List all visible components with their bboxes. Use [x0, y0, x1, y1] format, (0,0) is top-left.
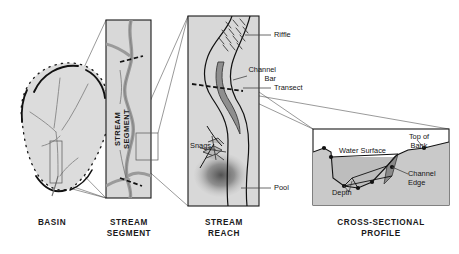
callout-top-of-bank: Top of Bank — [399, 133, 439, 150]
caption-cross-sectional-profile: CROSS-SECTIONAL PROFILE — [311, 218, 451, 239]
basin-panel — [21, 63, 109, 196]
stream-segment-inner-label: STREAM SEGMENT — [113, 107, 131, 151]
caption-stream-reach: STREAM REACH — [186, 218, 262, 239]
callout-channel-bar: Channel Bar — [232, 66, 276, 83]
stream-reach-panel — [188, 16, 259, 206]
callout-transect: Transect — [274, 84, 302, 93]
callout-channel-edge: Channel Edge — [408, 170, 450, 187]
caption-stream-segment: STREAM SEGMENT — [91, 218, 167, 239]
callout-pool: Pool — [274, 184, 289, 193]
figure-canvas: STREAM SEGMENT Riffle Channel Bar Transe… — [0, 0, 459, 254]
diagram-svg — [0, 0, 459, 254]
callout-riffle: Riffle — [274, 31, 291, 40]
callout-snags: Snags — [190, 142, 211, 151]
callout-water-surface: Water Surface — [339, 147, 386, 156]
caption-basin: BASIN — [12, 218, 92, 229]
callout-depth: Depth — [332, 189, 352, 198]
